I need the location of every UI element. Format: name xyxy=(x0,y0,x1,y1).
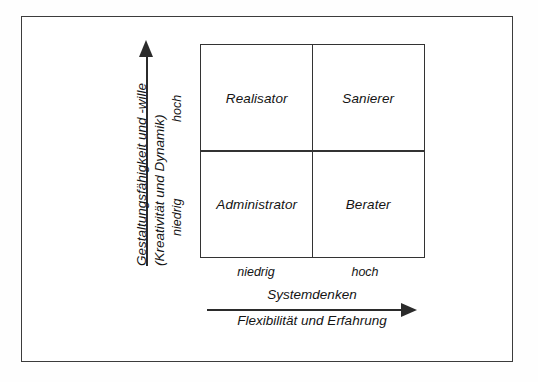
quadrant-label-berater: Berater xyxy=(346,197,391,212)
x-axis-title-primary: Systemdenken xyxy=(192,287,432,302)
quadrant-label-realisator: Realisator xyxy=(226,91,288,106)
y-axis-title-secondary: (Kreativität und Dynamik) xyxy=(152,114,167,266)
quadrant-label-administrator: Administrator xyxy=(216,197,297,212)
y-axis-title-primary: Gestaltungsfähigkeit und -wille xyxy=(134,83,149,266)
quadrant-bottom-right: Berater xyxy=(313,151,425,257)
x-axis-tick-high: hoch xyxy=(320,265,410,279)
quadrant-matrix: Realisator Sanierer Administrator Berate… xyxy=(200,44,425,258)
y-axis-tick-high: hoch xyxy=(170,95,184,122)
y-axis-arrowhead-icon xyxy=(139,40,153,57)
matrix-figure: Gestaltungsfähigkeit und -wille (Kreativ… xyxy=(0,0,538,382)
y-axis-tick-low: niedrig xyxy=(170,198,184,236)
x-axis-title-secondary: Flexibilität und Erfahrung xyxy=(192,313,432,328)
x-axis-line xyxy=(207,309,403,311)
x-axis-tick-low: niedrig xyxy=(211,265,301,279)
quadrant-bottom-left: Administrator xyxy=(201,151,313,257)
quadrant-label-sanierer: Sanierer xyxy=(342,91,394,106)
quadrant-top-left: Realisator xyxy=(201,45,313,151)
quadrant-top-right: Sanierer xyxy=(313,45,425,151)
